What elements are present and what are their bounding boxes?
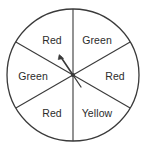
sector-label-bottom-left: Red (42, 108, 62, 119)
sector-label-left: Green (18, 71, 48, 82)
spinner-pivot-hub (71, 73, 75, 77)
spinner-figure: Red Green Red Yellow Red Green (0, 0, 146, 153)
sector-label-top-right: Green (82, 35, 112, 46)
sector-label-right: Red (105, 71, 125, 82)
sector-label-bottom-right: Yellow (82, 108, 113, 119)
sector-label-top-left: Red (42, 35, 62, 46)
